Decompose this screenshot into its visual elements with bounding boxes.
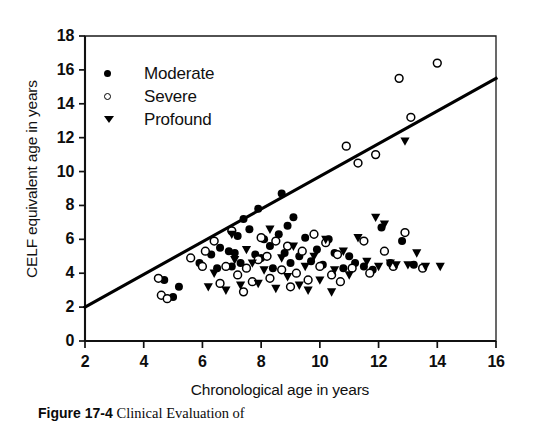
data-point bbox=[289, 213, 297, 221]
figure-caption: Figure 17-4 Clinical Evaluation of bbox=[38, 405, 536, 422]
y-axis-label: CELF equivalent age in years bbox=[23, 29, 41, 329]
data-point bbox=[271, 285, 280, 293]
data-point bbox=[278, 190, 286, 198]
legend-label-severe: Severe bbox=[144, 87, 197, 107]
data-point bbox=[265, 226, 274, 234]
data-point bbox=[269, 264, 277, 272]
data-point bbox=[254, 205, 262, 213]
data-point bbox=[334, 251, 342, 259]
legend-label-moderate: Moderate bbox=[144, 64, 214, 84]
y-tick-label: 0 bbox=[30, 332, 74, 350]
open-circle-icon bbox=[100, 93, 144, 100]
triangle-down-icon bbox=[100, 116, 144, 123]
data-point bbox=[436, 263, 445, 271]
legend-item-profound: Profound bbox=[100, 108, 214, 131]
x-tick-label: 2 bbox=[81, 353, 90, 371]
x-axis-label: Chronological age in years bbox=[60, 381, 500, 399]
data-point bbox=[231, 249, 239, 257]
figure-caption-label: Figure 17-4 bbox=[38, 405, 113, 421]
data-point bbox=[243, 264, 251, 272]
data-point bbox=[360, 237, 368, 245]
x-tick-label: 6 bbox=[198, 353, 207, 371]
data-point bbox=[313, 246, 321, 254]
legend-item-moderate: Moderate bbox=[100, 62, 214, 85]
x-tick-label: 12 bbox=[370, 353, 387, 371]
data-point bbox=[266, 274, 274, 282]
data-point bbox=[366, 269, 374, 277]
data-point bbox=[400, 137, 409, 145]
data-point bbox=[348, 264, 356, 272]
data-point bbox=[216, 244, 224, 252]
data-point bbox=[304, 287, 313, 295]
data-point bbox=[242, 246, 251, 254]
data-point bbox=[210, 270, 219, 278]
data-point bbox=[263, 252, 271, 260]
data-point bbox=[221, 287, 230, 295]
data-point bbox=[345, 252, 353, 260]
data-point bbox=[292, 269, 300, 277]
data-point bbox=[342, 142, 350, 150]
data-point bbox=[301, 234, 309, 242]
data-point bbox=[371, 214, 380, 222]
data-point bbox=[401, 229, 409, 237]
data-point bbox=[339, 264, 347, 272]
data-point bbox=[201, 247, 209, 255]
data-point bbox=[310, 230, 318, 238]
data-point bbox=[278, 266, 286, 274]
x-tick-label: 8 bbox=[257, 353, 266, 371]
x-tick-label: 14 bbox=[429, 353, 446, 371]
data-point bbox=[154, 274, 162, 282]
data-point bbox=[398, 237, 406, 245]
data-point bbox=[284, 222, 292, 230]
data-point bbox=[301, 263, 310, 271]
filled-circle-icon bbox=[100, 70, 144, 77]
chart-legend: Moderate Severe Profound bbox=[100, 62, 214, 131]
data-point bbox=[187, 254, 195, 262]
data-point bbox=[199, 263, 207, 271]
data-point bbox=[372, 151, 380, 159]
data-point bbox=[245, 225, 253, 233]
data-point bbox=[354, 159, 362, 167]
data-point bbox=[259, 266, 268, 274]
data-point bbox=[412, 249, 421, 257]
data-point bbox=[395, 74, 403, 82]
data-point bbox=[315, 276, 324, 284]
data-point bbox=[257, 234, 265, 242]
data-point bbox=[287, 283, 295, 291]
data-point bbox=[304, 276, 312, 284]
data-point bbox=[216, 279, 224, 287]
data-point bbox=[234, 271, 242, 279]
data-point bbox=[407, 113, 415, 121]
data-point bbox=[277, 254, 286, 262]
x-tick-label: 10 bbox=[311, 353, 328, 371]
data-point bbox=[295, 281, 304, 289]
data-point bbox=[204, 283, 213, 291]
data-point bbox=[316, 263, 324, 271]
figure-container: 024681012141618 246810121416 CELF equiva… bbox=[0, 0, 536, 429]
data-point bbox=[337, 278, 345, 286]
data-point bbox=[240, 215, 248, 223]
data-point bbox=[222, 263, 230, 271]
data-point bbox=[433, 59, 441, 67]
data-point bbox=[327, 288, 336, 296]
data-point bbox=[283, 273, 292, 281]
x-tick-label: 4 bbox=[139, 353, 148, 371]
legend-label-profound: Profound bbox=[144, 110, 211, 130]
data-point bbox=[210, 237, 218, 245]
x-tick-label: 16 bbox=[487, 353, 504, 371]
data-point bbox=[287, 259, 295, 267]
legend-item-severe: Severe bbox=[100, 85, 214, 108]
figure-caption-text: Clinical Evaluation of bbox=[117, 405, 245, 421]
data-point bbox=[272, 237, 280, 245]
data-point bbox=[175, 283, 183, 291]
data-point bbox=[163, 295, 171, 303]
data-point bbox=[345, 271, 354, 279]
data-point bbox=[381, 247, 389, 255]
data-point bbox=[298, 247, 306, 255]
